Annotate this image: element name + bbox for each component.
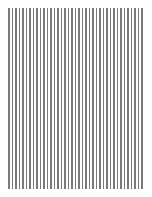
vertical-line — [124, 8, 126, 189]
vertical-line — [117, 8, 119, 189]
vertical-line — [106, 8, 108, 189]
vertical-line — [50, 8, 52, 189]
vertical-line — [113, 8, 115, 189]
vertical-line — [75, 8, 77, 189]
vertical-line — [127, 8, 129, 189]
vertical-line — [26, 8, 28, 189]
vertical-line — [54, 8, 56, 189]
vertical-line — [78, 8, 80, 189]
vertical-line — [29, 8, 31, 189]
vertical-line — [141, 8, 143, 189]
vertical-line — [131, 8, 133, 189]
vertical-line-pattern — [8, 8, 143, 189]
vertical-line — [8, 8, 10, 189]
vertical-line — [82, 8, 84, 189]
vertical-line — [19, 8, 21, 189]
vertical-line — [89, 8, 91, 189]
vertical-line — [33, 8, 35, 189]
vertical-line — [15, 8, 17, 189]
vertical-line — [103, 8, 105, 189]
vertical-line — [22, 8, 24, 189]
vertical-line — [64, 8, 66, 189]
vertical-line — [99, 8, 101, 189]
vertical-line — [92, 8, 94, 189]
vertical-line — [68, 8, 70, 189]
vertical-line — [71, 8, 73, 189]
vertical-line — [120, 8, 122, 189]
vertical-line — [12, 8, 14, 189]
vertical-line — [110, 8, 112, 189]
vertical-line — [61, 8, 63, 189]
vertical-line — [134, 8, 136, 189]
vertical-line — [57, 8, 59, 189]
vertical-line — [40, 8, 42, 189]
vertical-line — [47, 8, 49, 189]
vertical-line — [36, 8, 38, 189]
vertical-line — [138, 8, 140, 189]
vertical-line — [43, 8, 45, 189]
vertical-line — [96, 8, 98, 189]
vertical-line — [85, 8, 87, 189]
